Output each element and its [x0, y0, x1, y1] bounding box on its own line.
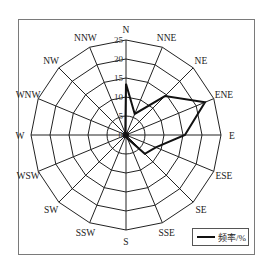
- tick-label: 15: [114, 73, 124, 83]
- direction-label-NW: NW: [43, 56, 59, 66]
- center-hub: [123, 132, 129, 138]
- tick-label: 0: [119, 130, 124, 140]
- direction-label-SE: SE: [195, 205, 206, 215]
- direction-label-SSW: SSW: [76, 228, 96, 238]
- direction-label-W: W: [16, 131, 25, 141]
- spoke-SW: [59, 135, 126, 202]
- direction-label-N: N: [123, 25, 130, 35]
- direction-label-WSW: WSW: [16, 171, 39, 181]
- tick-label: 25: [114, 35, 124, 45]
- legend-label: 频率/%: [218, 231, 246, 244]
- direction-label-E: E: [229, 131, 235, 141]
- tick-label: 10: [114, 92, 124, 102]
- legend: 频率/%: [192, 228, 249, 246]
- direction-label-SSE: SSE: [158, 228, 175, 238]
- spoke-NE: [126, 68, 193, 135]
- direction-label-SW: SW: [44, 205, 58, 215]
- legend-line-swatch: [197, 236, 215, 238]
- direction-label-WNW: WNW: [16, 90, 41, 100]
- direction-label-NNE: NNE: [157, 33, 177, 43]
- direction-label-NNW: NNW: [74, 33, 97, 43]
- direction-label-ESE: ESE: [215, 171, 232, 181]
- tick-label: 5: [119, 111, 124, 121]
- tick-label: 20: [114, 54, 124, 64]
- direction-label-NE: NE: [195, 56, 208, 66]
- direction-label-ENE: ENE: [215, 90, 234, 100]
- direction-label-S: S: [123, 237, 128, 247]
